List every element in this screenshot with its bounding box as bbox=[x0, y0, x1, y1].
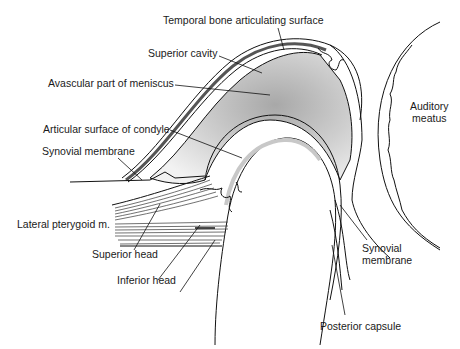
label-synovial-membrane-left: Synovial membrane bbox=[42, 145, 135, 157]
label-inferior-head: Inferior head bbox=[117, 274, 176, 286]
label-superior-cavity: Superior cavity bbox=[148, 47, 217, 59]
label-auditory-meatus: Auditory meatus bbox=[410, 100, 449, 124]
label-temporal-bone: Temporal bone articulating surface bbox=[163, 14, 324, 26]
label-synovial-membrane-right-line1: Synovial bbox=[362, 242, 402, 254]
lateral-pterygoid-muscle bbox=[115, 180, 228, 244]
label-lateral-pterygoid: Lateral pterygoid m. bbox=[17, 218, 110, 230]
auditory-meatus-wall bbox=[378, 22, 440, 250]
label-articular-condyle: Articular surface of condyle bbox=[43, 123, 170, 135]
condyle bbox=[215, 138, 336, 345]
label-superior-head: Superior head bbox=[92, 248, 158, 260]
label-synovial-membrane-right-line2: membrane bbox=[362, 254, 412, 266]
tmj-diagram bbox=[0, 0, 460, 349]
label-posterior-capsule: Posterior capsule bbox=[320, 320, 401, 332]
label-auditory-meatus-line1: Auditory bbox=[410, 100, 449, 112]
label-auditory-meatus-line2: meatus bbox=[412, 112, 446, 124]
label-synovial-membrane-right: Synovial membrane bbox=[362, 242, 412, 266]
label-avascular-meniscus: Avascular part of meniscus bbox=[48, 77, 174, 89]
